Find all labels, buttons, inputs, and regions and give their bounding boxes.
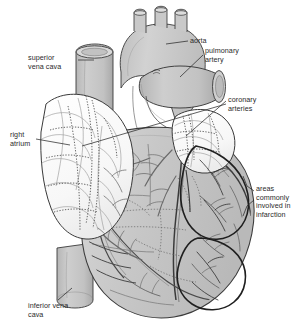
heart-anatomy-figure: superior vena cava right atrium inferior… xyxy=(0,0,307,331)
label-right-atrium: right atrium xyxy=(10,131,30,148)
label-coronary-arteries: coronary arteries xyxy=(228,96,256,113)
label-pulmonary-artery: pulmonary artery xyxy=(205,47,239,64)
label-infarction-areas: areas commonly involved in infarction xyxy=(256,185,291,219)
label-aorta: aorta xyxy=(190,37,207,46)
heart-diagram-svg xyxy=(0,0,307,331)
label-superior-vena-cava: superior vena cava xyxy=(28,54,61,71)
label-inferior-vena-cava: inferior vena cava xyxy=(28,302,68,319)
